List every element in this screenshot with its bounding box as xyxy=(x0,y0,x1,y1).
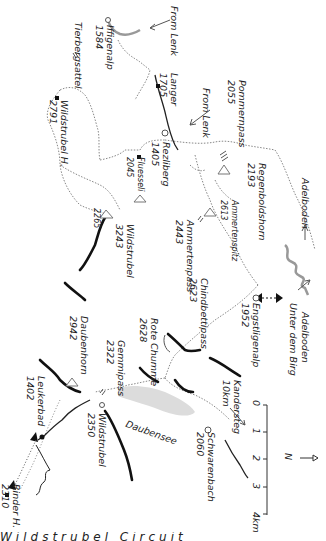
label-leukerbad: Leukerbad1402 xyxy=(25,376,47,426)
fluesseli-peak-icon xyxy=(134,195,146,202)
label-fluesseli: Fluesseli2045 xyxy=(124,157,146,192)
label-wildstrubel-hut: Wildstrubel H.2791 xyxy=(48,100,70,167)
scale-label-1: 1 xyxy=(251,428,262,434)
leukerbad-cablecar-icon xyxy=(30,432,38,442)
scale-bar xyxy=(263,405,267,515)
label-regenboldshorn: Regenboldshorn2193 xyxy=(246,163,268,241)
north-arrow xyxy=(300,455,318,461)
label-adelboden-1: Adelboden xyxy=(300,178,311,229)
label-rezliberg: Rezliberg1405 xyxy=(150,142,172,187)
label-iffigenalp: Iffigenalp1584 xyxy=(94,25,116,70)
label-pommernpass: Pommernpass2055 xyxy=(226,80,248,148)
label-rote-chumme: Rote Chumme2628 xyxy=(138,318,160,386)
scale-label-2: 2 xyxy=(251,455,262,461)
label-gemmipass: Gemmipass2322 xyxy=(105,340,127,396)
label-2265: 2265 xyxy=(91,208,102,228)
scale-label-0: 0 xyxy=(251,400,262,406)
label-from-lenk-2: From Lenk xyxy=(201,88,212,138)
north-label: N xyxy=(283,453,294,460)
label-unter-dem-birg: Unter dem Birg xyxy=(288,303,299,376)
label-adelboden-2: Adelboden xyxy=(300,312,311,363)
label-chindbettipass: Chindbettipass2623 xyxy=(188,278,210,349)
daubenhorn-peak-icon xyxy=(66,378,78,386)
scale-label-3: 3 xyxy=(251,483,262,489)
label-engstligenalp: Engstligenalp1952 xyxy=(240,303,262,367)
label-rinder-hut: Rinder H.2310 xyxy=(0,484,22,528)
label-ammertenspitz: Ammertenspitz2613 xyxy=(218,200,240,261)
unter-dem-birg-cablecar-icon xyxy=(276,293,283,303)
label-wildstrubel: Wildstrubel3243 xyxy=(114,224,136,278)
regenboldshorn-peak-icon xyxy=(218,165,230,174)
label-tierbergsattel: Tierbergsattel xyxy=(73,22,84,89)
label-schwarenbach: Schwarenbach2060 xyxy=(195,432,217,502)
label-langer: Langer1705 xyxy=(158,73,180,106)
iffigenalp-circle xyxy=(106,18,111,23)
label-wildstrubel-2350: Wildstrubel2350 xyxy=(86,413,108,467)
label-daubenhorn: Daubenhorn2942 xyxy=(68,316,90,375)
label-from-lenk-1: From Lenk xyxy=(169,6,180,56)
map-caption: Wildstrubel Circuit map xyxy=(0,532,200,541)
scale-label-4km: 4km xyxy=(251,512,262,533)
label-kandersteg: Kandersteg10km xyxy=(221,380,243,434)
